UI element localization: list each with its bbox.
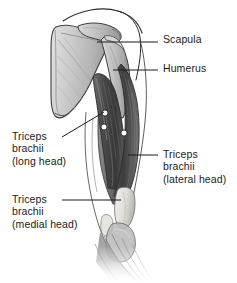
marker-dot-3 [121,130,127,136]
marker-dot-2 [101,124,107,130]
label-line: Scapula [163,33,202,45]
label-line: (long head) [12,155,66,167]
label-scapula: Scapula [163,33,202,45]
label-triceps-brachii-long-head: Tricepsbrachii(long head) [12,130,66,167]
label-line: brachii [12,142,66,154]
label-line: (medial head) [12,218,78,230]
forearm-mass [70,232,210,283]
label-triceps-brachii-medial-head: Tricepsbrachii(medial head) [12,193,78,230]
label-triceps-brachii-lateral-head: Tricepsbrachii(lateral head) [163,148,226,185]
label-line: Triceps [163,148,226,160]
label-line: brachii [12,205,78,217]
label-line: (lateral head) [163,173,226,185]
label-line: brachii [163,160,226,172]
label-line: Triceps [12,193,78,205]
label-line: Humerus [163,62,206,74]
label-humerus: Humerus [163,62,206,74]
label-line: Triceps [12,130,66,142]
anatomy-figure: ScapulaHumerusTricepsbrachii(long head)T… [0,0,237,283]
